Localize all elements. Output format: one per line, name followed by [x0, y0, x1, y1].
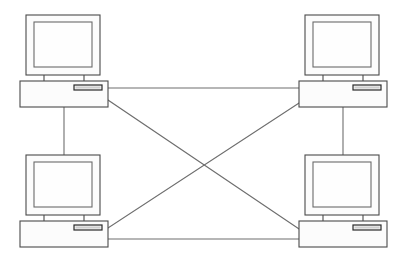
node-top-right[interactable]	[299, 15, 387, 107]
diagram-surface	[0, 0, 404, 259]
monitor-screen-icon	[313, 22, 371, 67]
disk-drive-slot-fill	[76, 87, 101, 89]
node-bottom-right[interactable]	[299, 155, 387, 247]
monitor-screen-icon	[34, 22, 92, 67]
disk-drive-slot-fill	[355, 87, 380, 89]
disk-drive-slot-fill	[76, 227, 101, 229]
node-top-left[interactable]	[20, 15, 108, 107]
link-layer	[64, 88, 343, 239]
network-topology-diagram: Mesh Network Topology Four desktop compu…	[0, 0, 404, 259]
node-layer	[20, 15, 387, 247]
node-bottom-left[interactable]	[20, 155, 108, 247]
disk-drive-slot-fill	[355, 227, 380, 229]
monitor-screen-icon	[34, 162, 92, 207]
monitor-screen-icon	[313, 162, 371, 207]
